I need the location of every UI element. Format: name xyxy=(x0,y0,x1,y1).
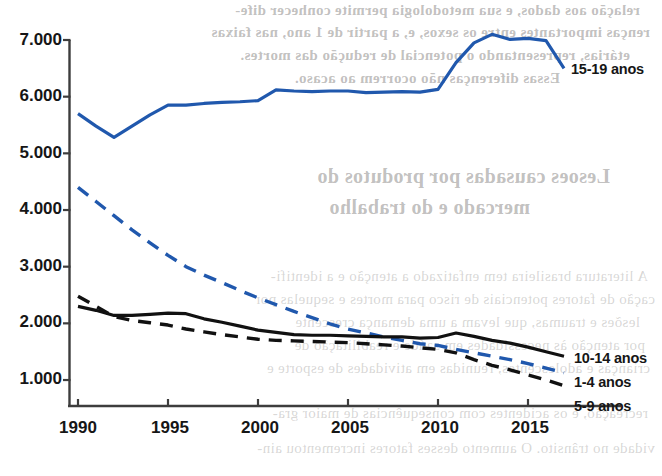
x-tick-label-2015: 2015 xyxy=(495,418,565,438)
x-tick-label-2005: 2005 xyxy=(315,418,385,438)
x-tick-label-1990: 1990 xyxy=(43,418,113,438)
y-tick-label-7000: 7.000 xyxy=(0,30,62,50)
line-chart: 7.000 6.000 5.000 4.000 3.000 2.000 1.00… xyxy=(0,0,662,476)
x-tick-label-1995: 1995 xyxy=(135,418,205,438)
series-label-1-4-anos: 1-4 anos xyxy=(574,374,631,390)
series-line-10-14-anos xyxy=(78,306,564,356)
y-tick-label-5000: 5.000 xyxy=(0,143,62,163)
series-label-10-14-anos: 10-14 anos xyxy=(574,350,647,366)
x-tick-label-2000: 2000 xyxy=(225,418,295,438)
y-tick-label-3000: 3.000 xyxy=(0,256,62,276)
series-label-5-9-anos: 5-9 anos xyxy=(574,398,631,414)
chart-series-group xyxy=(78,34,564,385)
series-line-1-4-anos xyxy=(78,187,564,372)
y-tick-label-2000: 2.000 xyxy=(0,312,62,332)
y-tick-label-6000: 6.000 xyxy=(0,86,62,106)
chart-plot-area xyxy=(0,0,662,476)
y-tick-label-1000: 1.000 xyxy=(0,369,62,389)
series-label-15-19-anos: 15-19 anos xyxy=(571,61,644,77)
series-line-15-19-anos xyxy=(78,34,564,137)
x-tick-label-2010: 2010 xyxy=(405,418,475,438)
y-tick-label-4000: 4.000 xyxy=(0,199,62,219)
